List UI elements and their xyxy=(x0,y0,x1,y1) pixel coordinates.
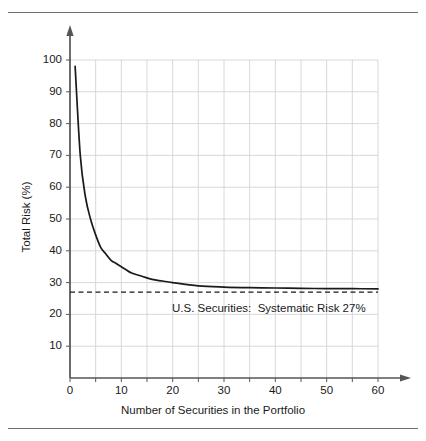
y-tick-label: 50 xyxy=(28,212,62,224)
y-axis-arrow-icon xyxy=(66,25,73,36)
x-tick-label: 60 xyxy=(361,384,395,396)
y-tick-label: 80 xyxy=(28,117,62,129)
x-tick-label: 20 xyxy=(156,384,190,396)
chart-plot-area xyxy=(0,0,426,441)
figure-container: Total Risk (%) Number of Securities in t… xyxy=(0,0,426,441)
y-tick-label: 20 xyxy=(28,307,62,319)
x-axis-title: Number of Securities in the Portfolio xyxy=(0,404,426,416)
axis-lines-group xyxy=(66,25,411,382)
y-tick-label: 30 xyxy=(28,276,62,288)
total-risk-curve xyxy=(75,66,378,289)
y-tick-label: 10 xyxy=(28,339,62,351)
y-tick-label: 100 xyxy=(28,53,62,65)
x-tick-label: 10 xyxy=(104,384,138,396)
x-tick-label: 0 xyxy=(53,384,87,396)
y-tick-label: 70 xyxy=(28,148,62,160)
y-tick-label: 40 xyxy=(28,244,62,256)
x-tick-label: 30 xyxy=(207,384,241,396)
x-tick-label: 40 xyxy=(258,384,292,396)
y-tick-label: 60 xyxy=(28,180,62,192)
x-tick-label: 50 xyxy=(310,384,344,396)
x-axis-arrow-icon xyxy=(400,374,411,381)
y-tick-label: 90 xyxy=(28,85,62,97)
systematic-risk-annotation: U.S. Securities: Systematic Risk 27% xyxy=(172,302,366,314)
